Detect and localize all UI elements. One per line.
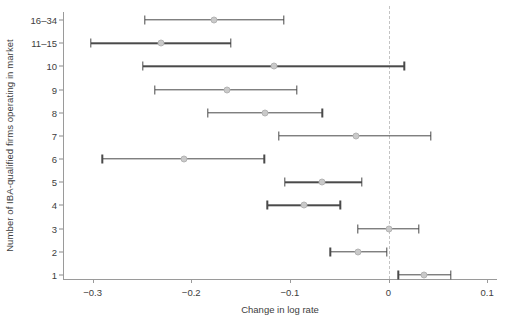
confidence-interval-cap-low bbox=[154, 85, 155, 94]
confidence-interval-cap-high bbox=[339, 201, 340, 210]
interval-row[interactable] bbox=[0, 36, 505, 50]
x-axis-title: Change in log rate bbox=[241, 304, 319, 315]
interval-row[interactable] bbox=[0, 245, 505, 259]
x-tick-label: −0.1 bbox=[280, 287, 299, 298]
x-tick-label: 0.1 bbox=[481, 287, 494, 298]
estimate-point-marker[interactable] bbox=[319, 179, 326, 186]
interval-row[interactable] bbox=[0, 106, 505, 120]
confidence-interval-cap-low bbox=[278, 131, 279, 140]
x-tick-label: −0.2 bbox=[182, 287, 201, 298]
confidence-interval-cap-low bbox=[330, 247, 331, 256]
estimate-point-marker[interactable] bbox=[271, 63, 278, 70]
confidence-interval-cap-high bbox=[418, 224, 419, 233]
interval-row[interactable] bbox=[0, 198, 505, 212]
estimate-point-marker[interactable] bbox=[354, 248, 361, 255]
confidence-interval-cap-low bbox=[357, 224, 358, 233]
estimate-point-marker[interactable] bbox=[385, 225, 392, 232]
confidence-interval-cap-high bbox=[283, 16, 284, 25]
interval-row[interactable] bbox=[0, 59, 505, 73]
confidence-interval-cap-low bbox=[207, 108, 208, 117]
confidence-interval-cap-low bbox=[90, 39, 91, 48]
x-tick-label: −0.3 bbox=[83, 287, 102, 298]
confidence-interval-cap-high bbox=[230, 39, 231, 48]
confidence-interval-cap-low bbox=[102, 155, 103, 164]
confidence-interval-cap-high bbox=[264, 155, 265, 164]
confidence-interval-cap-low bbox=[144, 16, 145, 25]
confidence-interval-cap-high bbox=[430, 131, 431, 140]
confidence-interval-cap-low bbox=[266, 201, 267, 210]
interval-row[interactable] bbox=[0, 83, 505, 97]
estimate-point-marker[interactable] bbox=[262, 109, 269, 116]
confidence-interval-cap-low bbox=[142, 62, 143, 71]
interval-row[interactable] bbox=[0, 268, 505, 282]
estimate-point-marker[interactable] bbox=[352, 132, 359, 139]
confidence-interval-cap-low bbox=[398, 271, 399, 280]
interval-row[interactable] bbox=[0, 175, 505, 189]
estimate-point-marker[interactable] bbox=[421, 272, 428, 279]
plot-area: 16–3411–1510987654321−0.3−0.2−0.100.1 bbox=[0, 0, 505, 324]
confidence-interval-cap-high bbox=[361, 178, 362, 187]
y-axis-line bbox=[63, 12, 64, 279]
estimate-point-marker[interactable] bbox=[300, 202, 307, 209]
confidence-interval-cap-high bbox=[296, 85, 297, 94]
confidence-interval-cap-high bbox=[322, 108, 323, 117]
estimate-point-marker[interactable] bbox=[181, 156, 188, 163]
estimate-point-marker[interactable] bbox=[210, 17, 217, 24]
interval-row[interactable] bbox=[0, 222, 505, 236]
confidence-interval-cap-high bbox=[386, 247, 387, 256]
estimate-point-marker[interactable] bbox=[157, 40, 164, 47]
confidence-interval-cap-high bbox=[450, 271, 451, 280]
confidence-interval-cap-high bbox=[404, 62, 405, 71]
confidence-interval-cap-low bbox=[284, 178, 285, 187]
interval-row[interactable] bbox=[0, 13, 505, 27]
estimate-point-marker[interactable] bbox=[223, 86, 230, 93]
x-tick-label: 0 bbox=[386, 287, 391, 298]
interval-row[interactable] bbox=[0, 129, 505, 143]
interval-row[interactable] bbox=[0, 152, 505, 166]
forest-plot-figure: Number of IBA-qualified firms operating … bbox=[0, 0, 505, 324]
